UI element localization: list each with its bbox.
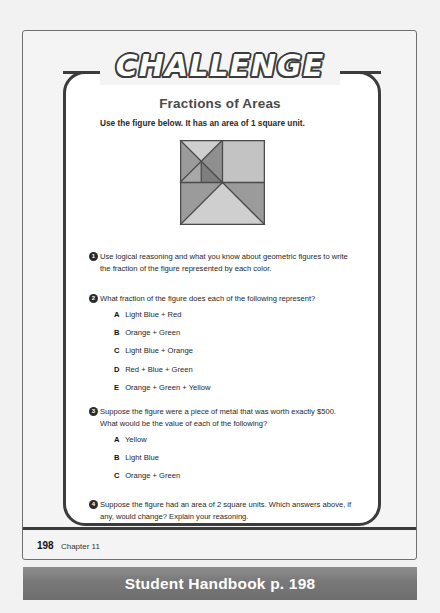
- question-3-option-b: B Light Blue: [114, 452, 352, 464]
- question-1-text: Use logical reasoning and what you know …: [100, 251, 352, 275]
- page-title: Fractions of Areas: [0, 96, 440, 111]
- question-4-number: 4: [89, 500, 98, 509]
- footer-page-number: 198: [37, 540, 54, 551]
- question-2-number: 2: [89, 294, 98, 303]
- question-3-option-c: C Orange + Green: [114, 470, 352, 482]
- option-letter: D: [114, 364, 123, 376]
- question-3: 3 Suppose the figure were a piece of met…: [100, 406, 352, 488]
- footer-chapter: Chapter 11: [61, 542, 100, 551]
- footer-divider: [23, 527, 416, 530]
- student-handbook-banner: Student Handbook p. 198: [23, 567, 417, 600]
- question-3-option-a: A Yellow: [114, 434, 352, 446]
- option-text: Light Blue: [125, 453, 159, 462]
- question-2-option-a: A Light Blue + Red: [114, 309, 352, 321]
- fractions-figure: [170, 140, 275, 225]
- option-letter: B: [114, 452, 123, 464]
- option-letter: C: [114, 345, 123, 357]
- option-letter: B: [114, 327, 123, 339]
- question-3-options: A Yellow B Light Blue C Orange + Green: [114, 434, 352, 482]
- intro-instruction: Use the figure below. It has an area of …: [100, 118, 350, 128]
- question-2-text: What fraction of the figure does each of…: [100, 293, 352, 305]
- fractions-figure-svg: [170, 140, 275, 225]
- option-text: Orange + Green + Yellow: [125, 383, 210, 392]
- option-letter: E: [114, 382, 123, 394]
- worksheet-page: CHALLENGE Fractions of Areas Use the fig…: [0, 0, 440, 613]
- question-2-option-c: C Light Blue + Orange: [114, 345, 352, 357]
- question-3-number: 3: [89, 407, 98, 416]
- question-2-options: A Light Blue + Red B Orange + Green C Li…: [114, 309, 352, 394]
- question-1-number: 1: [89, 252, 98, 261]
- question-2-option-b: B Orange + Green: [114, 327, 352, 339]
- option-text: Orange + Green: [125, 471, 180, 480]
- option-text: Red + Blue + Green: [125, 365, 193, 374]
- challenge-banner: CHALLENGE: [0, 46, 440, 86]
- option-text: Light Blue + Red: [125, 310, 181, 319]
- option-text: Light Blue + Orange: [125, 346, 193, 355]
- footer: 198 Chapter 11: [37, 540, 100, 551]
- question-4: 4 Suppose the figure had an area of 2 sq…: [100, 499, 352, 523]
- question-4-text: Suppose the figure had an area of 2 squa…: [100, 499, 352, 523]
- option-text: Orange + Green: [125, 328, 180, 337]
- question-2-option-d: D Red + Blue + Green: [114, 364, 352, 376]
- figure-region-light-blue-square: [223, 140, 266, 183]
- option-letter: A: [114, 309, 123, 321]
- option-letter: A: [114, 434, 123, 446]
- option-letter: C: [114, 470, 123, 482]
- option-text: Yellow: [125, 435, 147, 444]
- challenge-banner-label: CHALLENGE: [100, 46, 340, 85]
- question-1: 1 Use logical reasoning and what you kno…: [100, 251, 352, 275]
- question-3-text: Suppose the figure were a piece of metal…: [100, 406, 352, 430]
- question-2: 2 What fraction of the figure does each …: [100, 293, 352, 400]
- question-2-option-e: E Orange + Green + Yellow: [114, 382, 352, 394]
